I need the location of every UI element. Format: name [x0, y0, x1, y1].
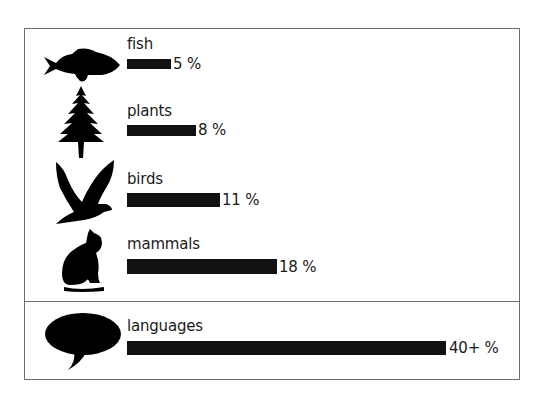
- category-label: plants: [127, 103, 172, 119]
- bar-birds: [127, 193, 220, 207]
- fish-icon: [42, 47, 122, 85]
- value-label: 11 %: [222, 192, 259, 208]
- tree-icon: [56, 86, 106, 158]
- bar-fish: [127, 59, 171, 69]
- value-label: 8 %: [198, 122, 226, 138]
- cat-icon: [60, 229, 106, 293]
- bar-plants: [127, 125, 196, 136]
- value-label: 18 %: [279, 259, 316, 275]
- category-label: languages: [127, 318, 203, 334]
- value-label: 5 %: [173, 56, 201, 72]
- category-label: fish: [127, 36, 153, 52]
- speech-bubble-icon: [44, 312, 124, 370]
- category-label: birds: [127, 171, 163, 187]
- value-label: 40+ %: [449, 340, 499, 356]
- bar-mammals: [127, 259, 277, 274]
- bird-icon: [54, 160, 116, 224]
- bar-languages: [127, 341, 446, 355]
- group-divider: [24, 301, 520, 302]
- category-label: mammals: [127, 236, 200, 252]
